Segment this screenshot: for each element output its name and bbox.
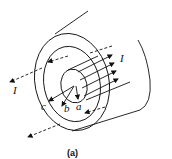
cylinder-top-edge	[55, 11, 88, 34]
figure-caption: (a)	[67, 148, 78, 158]
radius-label-b: b	[64, 102, 70, 114]
cylinder-bottom-and-end	[72, 40, 150, 131]
current-label-outer: I	[12, 84, 18, 96]
radius-label-c: c	[41, 100, 46, 112]
current-label-inner: I	[119, 52, 125, 64]
outer-current-arrow	[10, 68, 42, 82]
coaxial-cable-diagram: I I c b a (a)	[0, 0, 172, 159]
radius-a-line	[76, 86, 78, 99]
radius-label-a: a	[76, 100, 82, 112]
